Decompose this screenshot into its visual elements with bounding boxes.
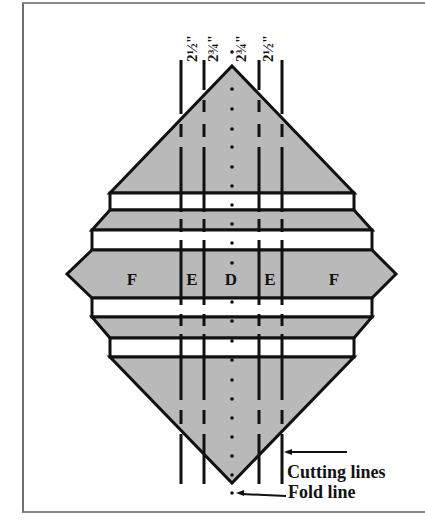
measurement-label-2: 2¾" bbox=[205, 35, 221, 62]
strip-label-f-right: F bbox=[329, 270, 339, 289]
cutting-lines-arrow-icon bbox=[284, 449, 292, 455]
cutting-lines-label: Cutting lines bbox=[287, 462, 386, 482]
white-strip-1 bbox=[110, 193, 354, 210]
quilt-cutting-diagram: 2½" 2¾" 2¾" 2½" F E D E F Cutting lines … bbox=[0, 0, 425, 522]
measurement-label-4: 2½" bbox=[260, 35, 276, 62]
fold-line-label: Fold line bbox=[288, 482, 356, 502]
measurement-labels: 2½" 2¾" 2¾" 2½" bbox=[184, 35, 276, 62]
strip-label-e-left: E bbox=[186, 270, 197, 289]
white-strip-2 bbox=[92, 230, 372, 250]
strip-label-d: D bbox=[225, 270, 237, 289]
fold-line-arrow-icon bbox=[236, 490, 244, 496]
gray-band-2 bbox=[92, 210, 372, 230]
measurement-label-3: 2¾" bbox=[233, 35, 249, 62]
strip-label-f-left: F bbox=[127, 270, 137, 289]
strip-label-e-right: E bbox=[264, 270, 275, 289]
measurement-label-1: 2½" bbox=[184, 35, 200, 62]
fold-line-arrow-shaft bbox=[242, 494, 286, 496]
